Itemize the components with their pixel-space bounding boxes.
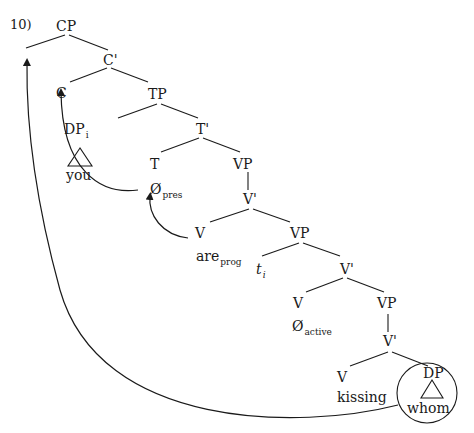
node-dp-subject: DPi <box>64 122 89 140</box>
node-vp-3: VP <box>377 296 397 310</box>
tree-branches <box>0 0 474 433</box>
node-v-bar-3: V' <box>383 334 397 348</box>
word-whom: whom <box>407 401 450 415</box>
trace: ti <box>256 262 266 280</box>
node-v-2: V <box>293 296 303 310</box>
active-subscript: active <box>304 327 331 337</box>
node-c: C <box>56 86 67 100</box>
node-t-bar: T' <box>196 122 209 136</box>
trace-label: t <box>256 261 262 277</box>
are-word: are <box>196 248 219 264</box>
node-cp: CP <box>56 19 76 33</box>
dp-index: i <box>86 130 89 140</box>
word-null-pres: Øpres <box>150 182 183 200</box>
node-v-bar-1: V' <box>243 192 257 206</box>
prog-subscript: prog <box>220 257 241 267</box>
word-null-active: Øactive <box>292 319 332 337</box>
syntax-tree-diagram: 10) CP C' C TP DPi you T' T Øpres VP V' … <box>0 0 474 433</box>
example-number: 10) <box>10 18 32 31</box>
node-vp-2: VP <box>290 226 310 240</box>
node-t: T <box>150 157 159 171</box>
node-v-1: V <box>195 226 205 240</box>
null-head: Ø <box>150 181 161 197</box>
pres-subscript: pres <box>162 190 182 200</box>
node-v-bar-2: V' <box>340 262 354 276</box>
word-are-prog: areprog <box>196 249 242 267</box>
node-dp-object: DP <box>423 366 444 380</box>
trace-index: i <box>263 270 266 280</box>
word-you: you <box>66 168 91 182</box>
node-vp-1: VP <box>233 157 253 171</box>
word-kissing: kissing <box>337 390 387 404</box>
node-v-3: V <box>337 370 347 384</box>
node-c-bar: C' <box>103 53 118 67</box>
node-tp: TP <box>148 87 167 101</box>
null-verb: Ø <box>292 318 303 334</box>
dp-label: DP <box>64 121 85 137</box>
